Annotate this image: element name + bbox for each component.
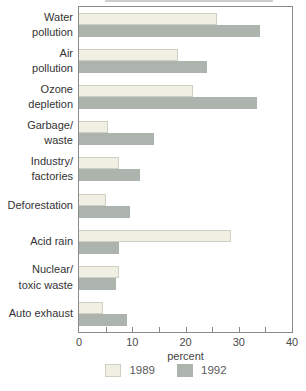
category-label: Garbage/waste bbox=[0, 118, 79, 149]
bar-1992 bbox=[79, 25, 260, 37]
bar-1992 bbox=[79, 97, 257, 109]
category-bars bbox=[79, 230, 292, 254]
x-axis-tick-label: 10 bbox=[126, 336, 138, 348]
category-label: Airpollution bbox=[0, 46, 79, 77]
category-label: Industry/factories bbox=[0, 154, 79, 185]
category-label: Auto exhaust bbox=[0, 306, 79, 321]
category-label: Nuclear/toxic waste bbox=[0, 262, 79, 293]
x-axis-tick-label: 20 bbox=[179, 336, 191, 348]
legend-label-1992: 1992 bbox=[201, 364, 227, 376]
bar-1992 bbox=[79, 242, 119, 254]
bar-1989 bbox=[79, 194, 106, 206]
bar-1992 bbox=[79, 206, 130, 218]
legend-swatch-1989 bbox=[105, 364, 121, 377]
bar-1989 bbox=[79, 13, 217, 25]
category-bars bbox=[79, 194, 292, 218]
bar-1989 bbox=[79, 49, 178, 61]
category-bars bbox=[79, 157, 292, 181]
category-bars bbox=[79, 49, 292, 73]
chart-row: Nuclear/toxic waste bbox=[0, 260, 292, 296]
bar-1992 bbox=[79, 169, 140, 181]
chart-row: Deforestation bbox=[0, 188, 292, 224]
bar-1992 bbox=[79, 314, 127, 326]
bar-1989 bbox=[79, 85, 193, 97]
legend: 1989 1992 bbox=[40, 362, 292, 378]
category-label: Ozonedepletion bbox=[0, 82, 79, 113]
bar-1992 bbox=[79, 278, 116, 290]
chart-row: Acid rain bbox=[0, 224, 292, 260]
bar-1992 bbox=[79, 61, 207, 73]
category-bars bbox=[79, 13, 292, 37]
chart-row: Industry/factories bbox=[0, 151, 292, 187]
bar-1989 bbox=[79, 230, 231, 242]
category-bars bbox=[79, 85, 292, 109]
bar-chart: WaterpollutionAirpollutionOzonedepletion… bbox=[0, 0, 306, 391]
category-label: Deforestation bbox=[0, 198, 79, 213]
category-bars bbox=[79, 121, 292, 145]
chart-rows: WaterpollutionAirpollutionOzonedepletion… bbox=[0, 7, 292, 332]
bar-1989 bbox=[79, 302, 103, 314]
bar-1989 bbox=[79, 121, 108, 133]
legend-swatch-1992 bbox=[177, 364, 193, 377]
x-axis-tick-label: 0 bbox=[76, 336, 82, 348]
category-label: Acid rain bbox=[0, 234, 79, 249]
legend-item-1992: 1992 bbox=[177, 364, 227, 377]
category-label: Waterpollution bbox=[0, 10, 79, 41]
category-bars bbox=[79, 302, 292, 326]
bar-1989 bbox=[79, 157, 119, 169]
bar-1989 bbox=[79, 266, 119, 278]
legend-item-1989: 1989 bbox=[105, 364, 155, 377]
x-axis-tick-labels: 010203040 bbox=[79, 336, 292, 349]
legend-label-1989: 1989 bbox=[129, 364, 155, 376]
chart-row: Ozonedepletion bbox=[0, 79, 292, 115]
chart-row: Waterpollution bbox=[0, 7, 292, 43]
chart-row: Auto exhaust bbox=[0, 296, 292, 332]
cropped-title-remnant-line bbox=[105, 0, 273, 2]
bar-1992 bbox=[79, 133, 154, 145]
x-axis-tick-label: 30 bbox=[233, 336, 245, 348]
category-bars bbox=[79, 266, 292, 290]
chart-row: Garbage/waste bbox=[0, 115, 292, 151]
chart-row: Airpollution bbox=[0, 43, 292, 79]
x-axis-title: percent bbox=[79, 350, 292, 362]
x-axis-tick-label: 40 bbox=[286, 336, 298, 348]
